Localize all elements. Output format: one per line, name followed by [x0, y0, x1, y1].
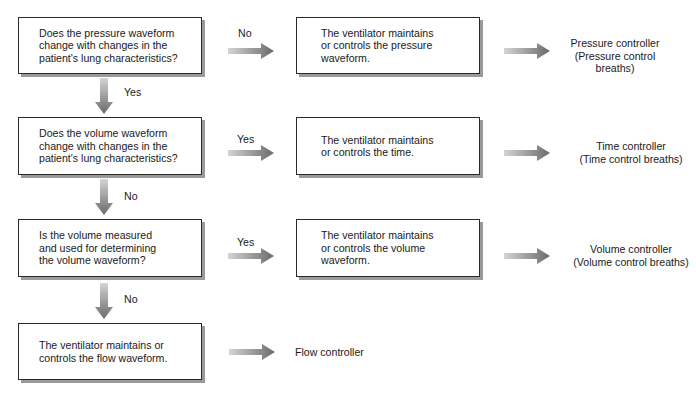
- down-label-no: No: [124, 190, 138, 203]
- decision-text: Is the volume measured and used for dete…: [39, 229, 156, 267]
- arrow-right-icon: [504, 43, 550, 59]
- branch-label-no: No: [238, 27, 252, 40]
- action-box-pressure: The ventilator maintains or controls the…: [296, 17, 480, 74]
- action-text: The ventilator maintains or controls the…: [39, 339, 167, 364]
- decision-box-volume-waveform: Does the volume waveform change with cha…: [18, 117, 202, 175]
- down-label-yes: Yes: [124, 86, 141, 99]
- result-time-controller: Time controller (Time control breaths): [565, 140, 696, 165]
- decision-box-pressure-waveform: Does the pressure waveform change with c…: [18, 17, 202, 74]
- arrow-down-icon: [95, 78, 113, 114]
- decision-box-volume-measured: Is the volume measured and used for dete…: [18, 219, 202, 277]
- down-label-no: No: [124, 293, 138, 306]
- arrow-right-icon: [504, 248, 550, 264]
- decision-text: Does the pressure waveform change with c…: [39, 27, 178, 65]
- action-text: The ventilator maintains or controls the…: [321, 134, 433, 159]
- arrow-right-icon: [228, 145, 274, 161]
- action-text: The ventilator maintains or controls the…: [321, 229, 433, 267]
- result-volume-controller: Volume controller (Volume control breath…: [565, 243, 696, 268]
- arrow-right-icon: [228, 248, 274, 264]
- action-text: The ventilator maintains or controls the…: [321, 27, 433, 65]
- arrow-right-icon: [504, 145, 550, 161]
- action-box-flow: The ventilator maintains or controls the…: [18, 323, 202, 380]
- branch-label-yes: Yes: [237, 133, 254, 146]
- branch-label-yes: Yes: [237, 236, 254, 249]
- decision-text: Does the volume waveform change with cha…: [39, 127, 178, 165]
- action-box-time: The ventilator maintains or controls the…: [296, 117, 480, 175]
- arrow-right-icon: [228, 43, 274, 59]
- arrow-right-icon: [229, 344, 275, 360]
- result-flow-controller: Flow controller: [295, 346, 364, 359]
- result-pressure-controller: Pressure controller (Pressure control br…: [562, 37, 668, 75]
- arrow-down-icon: [95, 283, 113, 319]
- action-box-volume: The ventilator maintains or controls the…: [296, 219, 480, 277]
- arrow-down-icon: [95, 179, 113, 215]
